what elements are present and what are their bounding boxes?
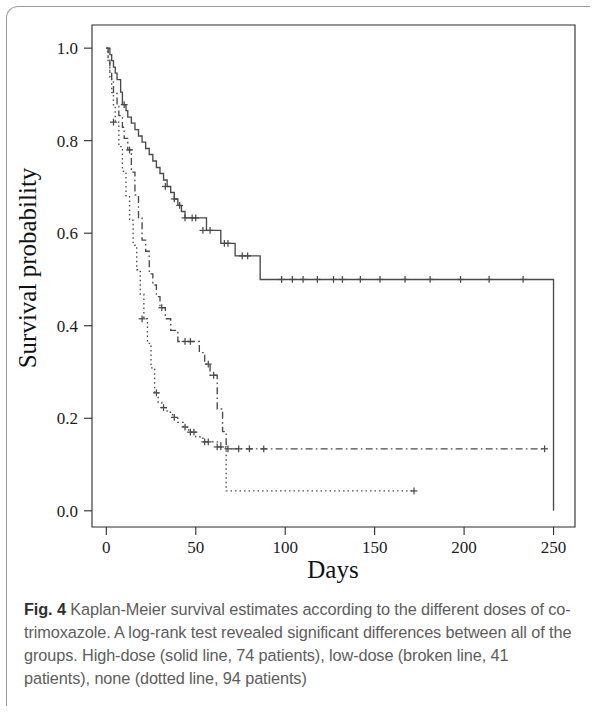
censoring-mark <box>205 438 212 445</box>
censoring-mark <box>210 372 217 379</box>
censoring-mark <box>330 276 337 283</box>
y-tick-label: 0.6 <box>57 224 78 243</box>
x-tick-label: 200 <box>451 538 477 557</box>
x-tick-label: 0 <box>102 538 111 557</box>
y-axis-ticks <box>84 48 92 511</box>
figure-container: 050100150200250 0.00.20.40.60.81.0 Days … <box>0 0 592 712</box>
x-tick-label: 150 <box>362 538 388 557</box>
censoring-mark <box>541 445 548 452</box>
plot-frame <box>92 25 575 527</box>
x-tick-label: 250 <box>541 538 567 557</box>
censoring-mark <box>200 227 207 234</box>
censoring-mark <box>246 445 253 452</box>
censoring-mark <box>486 276 493 283</box>
censoring-mark <box>160 404 167 411</box>
censoring-mark <box>153 389 160 396</box>
y-tick-label: 1.0 <box>57 39 78 58</box>
censoring-mark <box>314 276 321 283</box>
censoring-mark <box>402 276 409 283</box>
censoring-mark <box>182 215 189 222</box>
censoring-mark <box>244 252 251 259</box>
y-tick-label: 0.2 <box>57 409 78 428</box>
figure-caption-label: Fig. 4 <box>24 600 66 618</box>
censoring-mark <box>171 196 178 203</box>
y-axis-title: Survival probability <box>14 167 41 368</box>
censoring-mark <box>411 488 418 495</box>
x-axis-ticks <box>106 527 553 535</box>
y-tick-label: 0.0 <box>57 502 78 521</box>
kaplan-meier-chart: 050100150200250 0.00.20.40.60.81.0 Days … <box>0 0 592 600</box>
censoring-mark <box>357 276 364 283</box>
censoring-mark <box>182 424 189 431</box>
censoring-marks <box>110 101 548 494</box>
x-axis-tick-labels: 050100150200250 <box>102 538 566 557</box>
y-tick-label: 0.4 <box>57 317 79 336</box>
censoring-mark <box>191 429 198 436</box>
censoring-mark <box>207 227 214 234</box>
y-tick-label: 0.8 <box>57 132 78 151</box>
censoring-mark <box>457 276 464 283</box>
figure-caption-text: Kaplan-Meier survival estimates accordin… <box>24 600 571 687</box>
censoring-mark <box>300 276 307 283</box>
censoring-mark <box>225 240 232 247</box>
x-tick-label: 50 <box>187 538 204 557</box>
censoring-mark <box>278 276 285 283</box>
figure-caption: Fig. 4 Kaplan-Meier survival estimates a… <box>24 598 572 691</box>
survival-curve-broken <box>106 48 544 449</box>
censoring-mark <box>110 119 117 126</box>
y-axis-tick-labels: 0.00.20.40.60.81.0 <box>57 39 79 521</box>
censoring-mark <box>187 338 194 345</box>
censoring-mark <box>520 276 527 283</box>
x-tick-label: 100 <box>272 538 298 557</box>
censoring-mark <box>139 315 146 322</box>
censoring-mark <box>289 276 296 283</box>
censoring-mark <box>260 445 267 452</box>
censoring-mark <box>235 445 242 452</box>
censoring-mark <box>192 215 199 222</box>
censoring-mark <box>427 276 434 283</box>
censoring-mark <box>339 276 346 283</box>
censoring-mark <box>377 276 384 283</box>
censoring-mark <box>217 444 224 451</box>
x-axis-title: Days <box>307 556 358 583</box>
chart-plot-area: 050100150200250 0.00.20.40.60.81.0 Days … <box>0 0 592 600</box>
